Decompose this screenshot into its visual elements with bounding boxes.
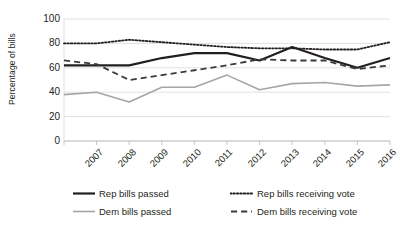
- x-axis-tick-labels: 2007200820092010201120122013201420152016…: [64, 141, 390, 185]
- plot-svg: [64, 19, 390, 141]
- x-tick-label-2015: 2015: [344, 147, 366, 169]
- legend-item-dem-bills-receiving-vote[interactable]: Dem bills receiving vote: [230, 206, 357, 217]
- y-axis-tick-labels: 020406080100: [16, 0, 60, 231]
- legend-item-rep-bills-passed[interactable]: Rep bills passed: [72, 188, 169, 199]
- plot-area: [64, 19, 390, 141]
- legend-swatch-dashed-icon: [230, 206, 254, 217]
- legend-label: Rep bills receiving vote: [257, 188, 355, 199]
- legend-label: Rep bills passed: [99, 188, 169, 199]
- chart-legend: Rep bills passedDem bills passedRep bill…: [64, 188, 394, 228]
- legend-swatch-dotted-icon: [230, 188, 254, 199]
- line-chart: Percentage of bills 020406080100 2007200…: [0, 0, 406, 231]
- y-tick-label-0: 0: [18, 136, 60, 146]
- x-tick-label-2013: 2013: [279, 147, 301, 169]
- x-tick-label-2012: 2012: [246, 147, 268, 169]
- x-tick-label-2014: 2014: [311, 147, 333, 169]
- legend-label: Dem bills passed: [99, 206, 171, 217]
- x-tick-label-2009: 2009: [148, 147, 170, 169]
- legend-item-rep-bills-receiving-vote[interactable]: Rep bills receiving vote: [230, 188, 355, 199]
- legend-swatch-solid-icon: [72, 206, 96, 217]
- y-tick-label-100: 100: [18, 14, 60, 24]
- series-line-dem-bills-passed: [64, 75, 390, 102]
- series-line-rep-bills-receiving-vote: [64, 40, 390, 50]
- legend-item-dem-bills-passed[interactable]: Dem bills passed: [72, 206, 171, 217]
- x-tick-label-2010: 2010: [181, 147, 203, 169]
- x-tick-label-2011: 2011: [213, 147, 235, 169]
- y-tick-label-20: 20: [18, 112, 60, 122]
- x-tick-label-2016: 2016: [377, 147, 399, 169]
- y-tick-label-40: 40: [18, 87, 60, 97]
- legend-swatch-solid-icon: [72, 188, 96, 199]
- y-tick-label-80: 80: [18, 38, 60, 48]
- legend-label: Dem bills receiving vote: [257, 206, 357, 217]
- x-tick-label-2008: 2008: [116, 147, 138, 169]
- x-tick-label-2007: 2007: [83, 147, 105, 169]
- y-tick-label-60: 60: [18, 63, 60, 73]
